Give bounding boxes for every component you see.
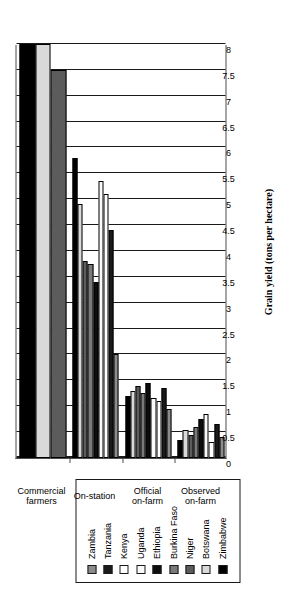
bar-burkina-faso: [87, 264, 92, 458]
bar-ethiopia: [145, 383, 150, 458]
legend-item-label: Tanzania: [103, 523, 112, 559]
category-label-line: Commercial: [9, 486, 73, 496]
value-tick-label: 7: [225, 97, 230, 107]
value-tick-label: 6.5: [222, 123, 235, 133]
value-tick-label: 5: [225, 200, 230, 210]
legend-item-label: Niger: [185, 537, 194, 559]
bar-botswana: [77, 204, 82, 458]
bar-kenya: [156, 401, 161, 458]
category-label: Commercialfarmers: [9, 486, 73, 506]
category-tick: [174, 458, 175, 463]
bar-zambia: [113, 355, 118, 459]
legend-swatch-icon: [152, 565, 161, 574]
legend-item-label: Kenya: [119, 533, 128, 559]
bar-tanzania: [214, 424, 219, 458]
legend-swatch-icon: [201, 565, 210, 574]
legend-swatch-icon: [119, 565, 128, 574]
bar-zimbabwe: [72, 158, 77, 458]
value-tick-label: 5.5: [222, 174, 235, 184]
legend-swatch-icon: [136, 565, 145, 574]
bar-zambia: [166, 409, 171, 458]
value-tick-label: 1.5: [222, 381, 235, 391]
legend-swatch-icon: [169, 565, 178, 574]
value-axis-ticks: 00.511.522.533.544.555.566.577.58: [228, 45, 250, 459]
bar-burkina-faso: [140, 393, 145, 458]
legend-swatch-icon: [218, 565, 227, 574]
bar-botswana: [35, 44, 51, 458]
bar-uganda: [98, 181, 103, 458]
value-tick-label: 3: [225, 304, 230, 314]
category-axis-labels: Observedon-farmOfficialon-farmOn-station…: [15, 464, 226, 528]
legend-swatch-icon: [103, 565, 112, 574]
category-tick: [69, 458, 70, 463]
value-tick-label: 2: [225, 356, 230, 366]
bar-botswana: [182, 430, 187, 458]
bar-niger: [50, 70, 66, 458]
bar-niger: [82, 261, 87, 458]
bar-botswana: [130, 391, 135, 458]
value-tick-label: 1: [225, 407, 230, 417]
value-tick-label: 4.5: [222, 226, 235, 236]
bar-kenya: [103, 194, 108, 458]
bar-uganda: [203, 414, 208, 458]
legend-item-label: Zambia: [87, 529, 96, 559]
bar-kenya: [208, 442, 213, 458]
category-tick: [122, 458, 123, 463]
value-tick-label: 8: [225, 45, 230, 55]
bar-niger: [135, 386, 140, 458]
bar-zimbabwe: [177, 440, 182, 458]
bar-zimbabwe: [125, 396, 130, 458]
legend-swatch-icon: [87, 565, 96, 574]
bar-tanzania: [108, 230, 113, 458]
bar-zimbabwe: [19, 44, 35, 458]
bar-niger: [188, 435, 193, 458]
value-tick-label: 6: [225, 149, 230, 159]
value-tick-label: 7.5: [222, 71, 235, 81]
value-tick-label: 4: [225, 252, 230, 262]
bar-burkina-faso: [193, 427, 198, 458]
bar-tanzania: [161, 388, 166, 458]
bar-ethiopia: [93, 282, 98, 458]
legend-item-label: Uganda: [136, 527, 145, 559]
value-tick-label: 0.5: [222, 433, 235, 443]
category-label-line: farmers: [9, 496, 73, 506]
value-axis-title: Grain yield (tons per hectare): [262, 45, 273, 459]
legend-item-label: Ethiopia: [152, 526, 161, 559]
legend-swatch-icon: [185, 565, 194, 574]
value-tick-label: 3.5: [222, 278, 235, 288]
plot-area: [15, 45, 226, 459]
bar-uganda: [150, 399, 155, 459]
chart-figure: ZambiaTanzaniaKenyaUgandaEthiopiaBurkina…: [0, 0, 301, 598]
value-tick-label: 2.5: [222, 330, 235, 340]
bar-ethiopia: [198, 419, 203, 458]
